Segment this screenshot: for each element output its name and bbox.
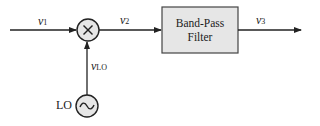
- filter-label-line2: Filter: [188, 30, 213, 44]
- filter-label: Band-Pass Filter: [162, 7, 238, 53]
- oscillator-label: LO: [56, 98, 72, 113]
- filter-label-line1: Band-Pass: [176, 16, 225, 30]
- mixer-output-label: v2: [120, 13, 129, 28]
- input-signal-label: v1: [38, 14, 47, 29]
- lo-signal-label: vLO: [91, 59, 107, 74]
- output-signal-label: v3: [256, 13, 265, 28]
